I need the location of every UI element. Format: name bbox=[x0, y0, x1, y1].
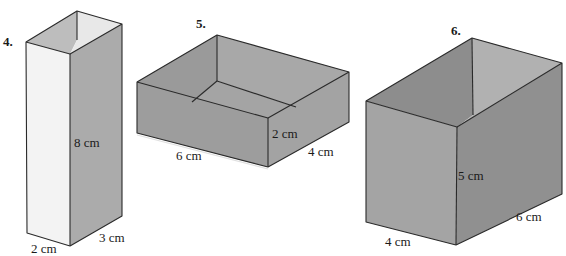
figure-4: 4. 8 cm 2 cm 3 cm bbox=[3, 11, 125, 256]
figure-6-number: 6. bbox=[451, 23, 461, 38]
figure-5-number: 5. bbox=[196, 16, 206, 31]
figure-5-length-label: 6 cm bbox=[176, 148, 202, 163]
figure-5-width-label: 4 cm bbox=[308, 144, 334, 159]
figure-6: 6. 5 cm 4 cm 6 cm bbox=[366, 23, 562, 249]
figure-6-height-label: 5 cm bbox=[458, 168, 484, 183]
figure-5-height-label: 2 cm bbox=[272, 126, 298, 141]
figure-4-height-label: 8 cm bbox=[74, 135, 100, 150]
diagram-canvas: 4. 8 cm 2 cm 3 cm 5. 2 cm 6 cm 4 cm bbox=[0, 0, 566, 256]
figure-4-width-label: 2 cm bbox=[31, 241, 57, 256]
figure-5: 5. 2 cm 6 cm 4 cm bbox=[137, 16, 349, 169]
figure-4-front-face bbox=[26, 42, 70, 246]
figure-6-width-label: 4 cm bbox=[385, 234, 411, 249]
figure-4-number: 4. bbox=[3, 34, 13, 49]
figure-4-depth-label: 3 cm bbox=[99, 230, 125, 245]
figure-6-length-label: 6 cm bbox=[516, 209, 542, 224]
